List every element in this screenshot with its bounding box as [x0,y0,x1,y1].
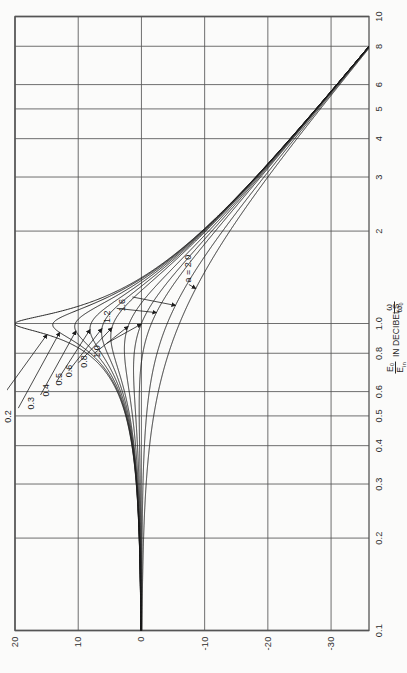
y-axis-label-denominator: Ein [396,361,407,374]
x-tick-label: 0.3 [374,477,384,490]
chart-figure: 0.10.20.30.40.50.60.81.023456810 20100-1… [7,7,397,666]
x-tick-label: 2 [374,228,384,233]
x-tick-label: 1.0 [374,316,384,329]
curve-label-0p3: 0.3 [26,396,36,409]
curve-label-0p2: 0.2 [3,410,13,423]
y-tick-label: -20 [263,636,273,660]
y-tick-label: 20 [10,636,20,660]
x-tick-label: 0.4 [374,438,384,451]
chart-plot-area [7,7,397,666]
x-tick-label: 0.8 [374,346,384,359]
curve-label-2: a = 2.0 [183,254,193,282]
curve-label-1: 1.0 [92,345,102,358]
curve-label-0p4: 0.4 [41,383,51,396]
x-tick-label: 0.2 [374,531,384,544]
x-tick-label: 0.1 [374,623,384,636]
x-tick-label: 4 [374,136,384,141]
curve-label-0p8: 0.8 [79,355,89,368]
y-axis-label-suffix: IN DECIBELS [391,303,401,357]
curve-label-1p2: 1.2 [102,310,112,323]
x-tick-label: 3 [374,174,384,179]
x-tick-label: 6 [374,81,384,86]
annotation-leader-10 [189,284,196,288]
x-tick-label: 0.5 [374,409,384,422]
annotation-leader-1 [18,332,59,408]
y-tick-label: -10 [200,636,210,660]
x-tick-label: 10 [374,11,384,22]
y-axis-label: E₀ Ein IN DECIBELS [386,303,407,373]
y-tick-label: -30 [326,636,336,660]
curve-label-0p5: 0.5 [54,373,64,386]
x-tick-label: 0.6 [374,384,384,397]
rotated-figure-wrapper: 0.10.20.30.40.50.60.81.023456810 20100-1… [7,7,397,666]
y-tick-label: 10 [73,636,83,660]
y-tick-label: 0 [136,636,146,660]
x-tick-label: 8 [374,43,384,48]
curve-label-0p6: 0.6 [64,364,74,377]
curve-label-1p6: 1.6 [117,299,127,312]
x-tick-label: 5 [374,106,384,111]
